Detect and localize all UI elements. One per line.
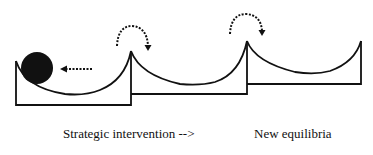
equilibria-diagram: Strategic intervention --> New equilibri… [0, 0, 373, 155]
ball-icon [21, 52, 53, 84]
curved-dotted-arrow-icon [117, 26, 152, 51]
basin-3 [247, 41, 361, 84]
caption-strategic-intervention: Strategic intervention --> [63, 126, 195, 142]
dotted-left-arrow-icon [60, 66, 92, 73]
caption-new-equilibria: New equilibria [254, 126, 332, 142]
curved-dotted-arrow-icon [230, 14, 266, 36]
